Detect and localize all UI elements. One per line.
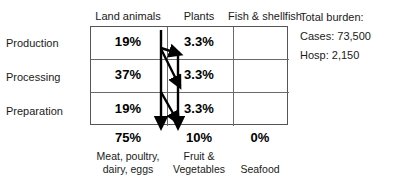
column-total-caption: Seafood (228, 163, 292, 176)
row-label-processing: Processing (6, 70, 86, 84)
column-header-land-animals: Land animals (90, 9, 166, 23)
caption-line: Vegetables (164, 163, 234, 176)
table-cell: 3.3% (166, 67, 232, 83)
column-header-fish-shellfish: Fish & shellfish (228, 9, 292, 23)
row-label-preparation: Preparation (6, 104, 86, 118)
burden-title: Total burden: (300, 8, 399, 27)
column-total-value: 0% (228, 130, 292, 146)
column-total-caption: Meat, poultry, dairy, eggs (84, 150, 172, 176)
table-cell: 37% (90, 67, 166, 83)
row-label-production: Production (6, 36, 86, 50)
caption-line: Seafood (228, 163, 292, 176)
table-cell (228, 101, 292, 117)
table-cell (228, 67, 292, 83)
caption-line: Fruit & (164, 150, 234, 163)
grid-row-divider (91, 92, 289, 93)
table-cell: 3.3% (166, 101, 232, 117)
grid-row-divider (91, 59, 289, 60)
caption-line: Meat, poultry, (84, 150, 172, 163)
column-total-caption: Fruit & Vegetables (164, 150, 234, 176)
burden-cases: Cases: 73,500 (300, 27, 399, 46)
table-cell: 3.3% (166, 34, 232, 50)
table-cell (228, 34, 292, 50)
column-header-plants: Plants (166, 9, 232, 23)
figure-canvas: Land animals Plants Fish & shellfish Pro… (0, 0, 399, 181)
table-cell: 19% (90, 101, 166, 117)
column-total-value: 75% (90, 130, 166, 146)
table-cell: 19% (90, 34, 166, 50)
burden-hospitalizations: Hosp: 2,150 (300, 46, 399, 65)
column-total-value: 10% (166, 130, 232, 146)
total-burden-block: Total burden: Cases: 73,500 Hosp: 2,150 (300, 8, 399, 65)
caption-line: dairy, eggs (84, 163, 172, 176)
